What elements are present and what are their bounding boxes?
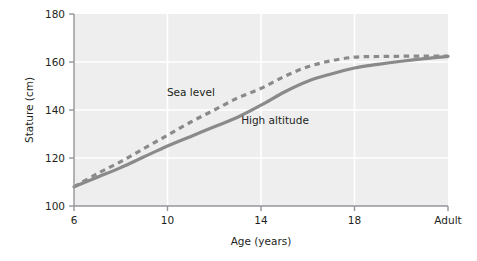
x-axis-tick-label: 18 xyxy=(348,214,361,226)
y-axis-tick-label: 100 xyxy=(45,200,65,212)
y-axis-tick-label: 120 xyxy=(45,152,65,164)
y-axis-tick-label: 180 xyxy=(45,8,65,20)
curve-label-sea-level: Sea level xyxy=(167,86,215,98)
y-axis-tick-label: 160 xyxy=(45,56,65,68)
x-axis-tick-label: 6 xyxy=(71,214,78,226)
x-axis-tick-label: 10 xyxy=(161,214,174,226)
y-axis-title: Stature (cm) xyxy=(23,77,35,143)
x-axis-title: Age (years) xyxy=(231,235,292,247)
y-axis-tick-label: 140 xyxy=(45,104,65,116)
curve-label-high-altitude: High altitude xyxy=(241,114,309,126)
x-axis-tick-label: Adult xyxy=(434,214,461,226)
stature-growth-chart: 1001201401601806101418AdultAge (years)St… xyxy=(0,0,477,261)
x-axis-tick-label: 14 xyxy=(254,214,268,226)
figure-container: 1001201401601806101418AdultAge (years)St… xyxy=(0,0,477,261)
